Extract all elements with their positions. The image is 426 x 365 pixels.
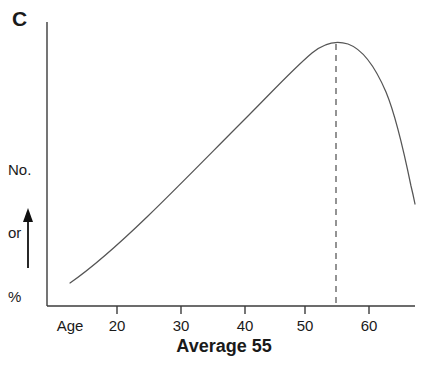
x-tick-label-20: 20 <box>109 318 126 333</box>
chart-plot-area <box>0 0 426 365</box>
panel-label: C <box>12 8 27 29</box>
y-axis-label: No. or % <box>8 116 31 350</box>
y-axis-label-line-2: or <box>8 222 31 243</box>
x-tick-label-30: 30 <box>173 318 190 333</box>
x-tick-label-50: 50 <box>297 318 314 333</box>
figure-panel-c: C No. or % Age 20 30 40 50 60 Average 55 <box>0 0 426 365</box>
x-axis-ticks <box>117 306 369 314</box>
x-tick-label-60: 60 <box>361 318 378 333</box>
y-axis-label-line-1: No. <box>8 159 31 180</box>
x-axis-prefix-label: Age <box>57 318 84 333</box>
x-axis-title: Average 55 <box>0 337 426 355</box>
x-tick-label-40: 40 <box>237 318 254 333</box>
y-axis-label-line-3: % <box>8 286 31 307</box>
data-curve <box>70 42 415 283</box>
